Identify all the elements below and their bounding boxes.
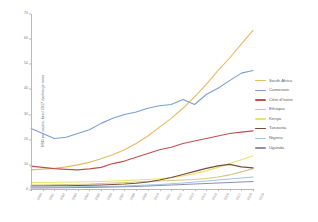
x-tick-label: 2011 — [165, 193, 171, 201]
y-tick-label: 60 — [24, 37, 28, 41]
x-tick-label: 2004 — [84, 193, 90, 201]
legend-item[interactable]: Uganda — [255, 143, 293, 153]
y-tick-label: 50 — [24, 62, 28, 66]
x-tick-mark — [195, 189, 196, 191]
series-line — [31, 131, 253, 170]
x-tick-mark — [206, 189, 207, 191]
x-tick-label: 2009 — [142, 193, 148, 201]
x-tick-mark — [124, 189, 125, 191]
series-line — [31, 30, 253, 170]
legend: South AfricaCameroonCôte d'IvoireEthiopi… — [255, 76, 293, 153]
y-tick-mark — [29, 164, 31, 165]
legend-item[interactable]: South Africa — [255, 76, 293, 86]
legend-color-swatch — [255, 128, 266, 129]
x-tick-mark — [230, 189, 231, 191]
x-tick-label: 2010 — [154, 193, 160, 201]
x-tick-mark — [113, 189, 114, 191]
legend-label: Cameroon — [269, 88, 289, 93]
y-tick-label: 40 — [24, 88, 28, 92]
y-tick-label: 10 — [24, 163, 28, 167]
x-tick-mark — [54, 189, 55, 191]
line-chart: USD per capita, fixed 2017 exchange rate… — [0, 0, 318, 222]
x-tick-mark — [218, 189, 219, 191]
x-tick-label: 2002 — [60, 193, 66, 201]
x-tick-mark — [171, 189, 172, 191]
series-lines — [31, 14, 253, 190]
x-tick-mark — [66, 189, 67, 191]
legend-label: Tanzania — [269, 126, 286, 131]
legend-item[interactable]: Kenya — [255, 114, 293, 124]
x-tick-label: 2006 — [107, 193, 113, 201]
y-axis-line — [31, 14, 32, 190]
legend-label: Nigeria — [269, 136, 283, 141]
legend-item[interactable]: Tanzania — [255, 124, 293, 134]
y-tick-label: 20 — [24, 138, 28, 142]
x-tick-label: 2016 — [224, 193, 230, 201]
y-tick-mark — [29, 39, 31, 40]
y-tick-mark — [29, 64, 31, 65]
legend-item[interactable]: Ethiopia — [255, 105, 293, 115]
x-tick-label: 2014 — [200, 193, 206, 201]
legend-item[interactable]: Nigeria — [255, 134, 293, 144]
x-tick-mark — [101, 189, 102, 191]
legend-color-swatch — [255, 109, 266, 110]
x-tick-label: 2000 — [37, 193, 43, 201]
x-tick-label: 2015 — [212, 193, 218, 201]
x-tick-label: 2013 — [189, 193, 195, 201]
legend-color-swatch — [255, 138, 266, 139]
y-tick-label: 70 — [24, 12, 28, 16]
x-tick-mark — [31, 189, 32, 191]
legend-item[interactable]: Côte d'Ivoire — [255, 95, 293, 105]
series-line — [31, 71, 253, 139]
x-tick-label: 2003 — [72, 193, 78, 201]
legend-label: Côte d'Ivoire — [269, 98, 293, 103]
x-tick-label: 2008 — [130, 193, 136, 201]
y-tick-mark — [29, 14, 31, 15]
plot-area: 010203040506070 200020012002200320042005… — [31, 14, 253, 190]
legend-label: Ethiopia — [269, 107, 285, 112]
x-tick-mark — [136, 189, 137, 191]
x-tick-label: 2001 — [49, 193, 55, 201]
x-tick-mark — [78, 189, 79, 191]
legend-label: South Africa — [269, 79, 292, 84]
x-tick-mark — [183, 189, 184, 191]
legend-color-swatch — [255, 80, 266, 81]
x-tick-label: 2018 — [247, 193, 253, 201]
x-tick-mark — [160, 189, 161, 191]
legend-item[interactable]: Cameroon — [255, 86, 293, 96]
x-axis-line — [31, 189, 253, 190]
x-tick-label: 2007 — [119, 193, 125, 201]
x-tick-mark — [148, 189, 149, 191]
x-tick-label: 2012 — [177, 193, 183, 201]
legend-color-swatch — [255, 99, 266, 100]
y-tick-mark — [29, 89, 31, 90]
x-tick-label: 2005 — [95, 193, 101, 201]
x-tick-mark — [253, 189, 254, 191]
legend-label: Kenya — [269, 117, 281, 122]
legend-color-swatch — [255, 118, 266, 119]
x-tick-mark — [241, 189, 242, 191]
y-tick-mark — [29, 114, 31, 115]
x-tick-label: 2017 — [236, 193, 242, 201]
x-tick-mark — [43, 189, 44, 191]
x-tick-mark — [89, 189, 90, 191]
x-tick-label: 2019 — [259, 193, 265, 201]
legend-color-swatch — [255, 147, 266, 148]
y-tick-label: 0 — [26, 188, 28, 192]
legend-label: Uganda — [269, 146, 284, 151]
y-tick-mark — [29, 139, 31, 140]
y-tick-label: 30 — [24, 113, 28, 117]
legend-color-swatch — [255, 90, 266, 91]
